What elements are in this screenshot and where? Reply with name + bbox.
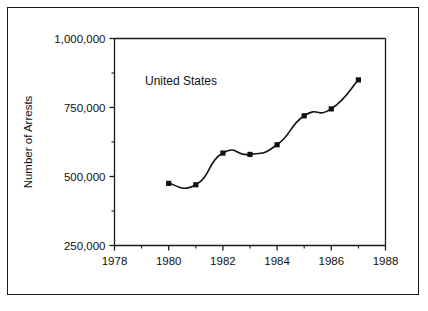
x-tick-label: 1980 xyxy=(156,255,182,267)
series-annotation-label: United States xyxy=(145,74,217,88)
x-tick-label: 1986 xyxy=(319,255,345,267)
data-point-marker xyxy=(302,113,307,118)
data-point-marker xyxy=(193,182,198,187)
y-axis-title: Number of Arrests xyxy=(22,95,34,188)
x-tick-label: 1982 xyxy=(210,255,236,267)
line-chart: 250,000500,000750,0001,000,0001978198019… xyxy=(0,0,428,311)
data-line-united-states xyxy=(169,80,359,188)
y-tick-label: 750,000 xyxy=(64,102,106,114)
data-point-marker xyxy=(220,150,225,155)
y-tick-label: 1,000,000 xyxy=(54,33,105,45)
data-point-marker xyxy=(247,152,252,157)
data-point-marker xyxy=(166,181,171,186)
chart-figure: 250,000500,000750,0001,000,0001978198019… xyxy=(0,0,428,311)
y-tick-label: 500,000 xyxy=(64,171,106,183)
x-tick-label: 1978 xyxy=(102,255,128,267)
x-tick-label: 1984 xyxy=(264,255,290,267)
data-point-marker xyxy=(275,142,280,147)
data-point-marker xyxy=(356,77,361,82)
x-tick-label: 1988 xyxy=(373,255,399,267)
y-tick-label: 250,000 xyxy=(64,240,106,252)
data-point-marker xyxy=(329,106,334,111)
